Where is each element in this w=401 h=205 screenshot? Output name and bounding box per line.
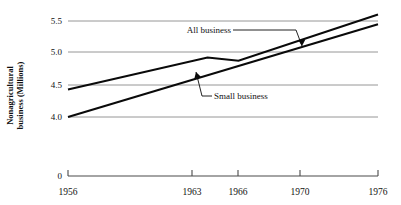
annotation-label-all-business: All business [187,25,232,35]
chart-plot-area: 5.5 5.0 4.5 4.0 0 1956 1963 1966 1970 19… [0,0,401,205]
annotation-label-small-business: Small business [214,91,268,101]
x-axis-tick-labels: 1956 1963 1966 1970 1976 [59,187,388,197]
ytick-label-4-0: 4.0 [51,112,63,122]
ytick-label-4-5: 4.5 [51,80,63,90]
ytick-label-0: 0 [58,171,63,181]
xtick-label-1970: 1970 [291,187,310,197]
arrowhead-all-business [299,40,306,46]
xtick-label-1963: 1963 [183,187,202,197]
series-line-small-business [68,24,378,117]
chart-container: Nonagricultural business (Millions) 5.5 … [0,0,401,205]
xtick-label-1966: 1966 [229,187,248,197]
ytick-label-5-5: 5.5 [51,16,63,26]
annotation-all-business: All business [187,25,306,46]
xtick-label-1976: 1976 [369,187,388,197]
xtick-label-1956: 1956 [59,187,78,197]
ytick-label-5-0: 5.0 [51,47,63,57]
y-axis-tick-labels: 5.5 5.0 4.5 4.0 0 [51,16,63,181]
x-axis [68,170,378,176]
